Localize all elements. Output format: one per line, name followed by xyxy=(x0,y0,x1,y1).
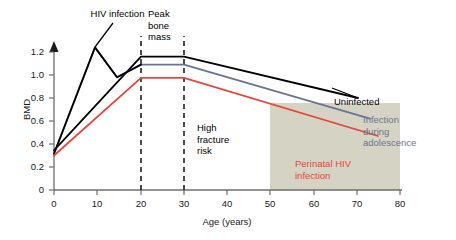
y-tick-label-0-2: 0.2 xyxy=(12,161,44,172)
hiv-infection-leader-line xyxy=(95,23,113,47)
x-tick-label-0: 0 xyxy=(39,198,69,209)
x-tick-label-60: 60 xyxy=(299,198,329,209)
x-tick-label-40: 40 xyxy=(212,198,242,209)
x-axis-title: Age (years) xyxy=(177,216,277,227)
y-tick-label-0-4: 0.4 xyxy=(12,138,44,149)
y-tick-label-1-0: 1.0 xyxy=(12,69,44,80)
annotation-peak-bone-mass: Peak bone mass xyxy=(148,8,198,43)
annotation-perinatal-hiv-infection: Perinatal HIV infection xyxy=(295,158,395,181)
annotation-high-fracture-risk: High fracture risk xyxy=(197,122,252,157)
x-axis-ticks xyxy=(54,190,400,195)
y-axis-ticks xyxy=(49,52,54,190)
y-axis-title: BMD xyxy=(21,80,32,140)
x-tick-label-50: 50 xyxy=(255,198,285,209)
bmd-age-chart: 1.2 1.0 0.8 0.6 0.4 0.2 0 0 10 20 30 40 … xyxy=(0,0,456,240)
x-tick-label-10: 10 xyxy=(82,198,112,209)
x-tick-label-30: 30 xyxy=(169,198,199,209)
x-tick-label-70: 70 xyxy=(342,198,372,209)
series-line-adolescence-preinfection-overlay xyxy=(54,47,141,153)
annotation-uninfected: Uninfected xyxy=(334,96,404,108)
y-tick-label-0: 0 xyxy=(12,184,44,195)
y-tick-label-1-2: 1.2 xyxy=(12,46,44,57)
x-tick-label-80: 80 xyxy=(385,198,415,209)
annotation-infection-during-adolescence: Infection during adolescence xyxy=(363,114,456,149)
x-tick-label-20: 20 xyxy=(126,198,156,209)
y-axis-arrow-icon xyxy=(50,41,59,52)
